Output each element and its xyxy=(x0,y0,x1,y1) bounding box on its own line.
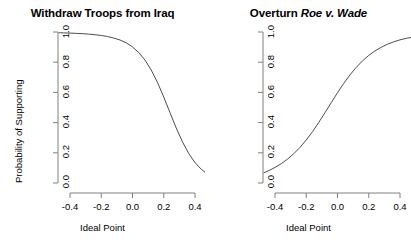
y-tick-label-1-0: 1.0 xyxy=(265,25,276,38)
x-tick-label-0-4: 0.4 xyxy=(393,201,406,212)
x-tick-label-0-0: 0.0 xyxy=(126,201,139,212)
curve-overturn-roe-v-wade xyxy=(264,37,411,172)
x-tick-label-0-2: 0.2 xyxy=(157,201,170,212)
y-tick-label-0-2: 0.2 xyxy=(265,145,276,158)
y-tick-label-0-6: 0.6 xyxy=(265,85,276,98)
y-tick-label-0-0: 0.0 xyxy=(60,175,71,188)
x-axis-label: Ideal Point xyxy=(206,222,411,233)
x-tick-label-0-4: 0.4 xyxy=(188,201,201,212)
x-tick-label-neg-0-4: -0.4 xyxy=(267,201,283,212)
x-tick-label-neg-0-2: -0.2 xyxy=(298,201,314,212)
y-axis-label: Probability of Supporting xyxy=(13,79,24,183)
panel-withdraw-troops: Withdraw Troops from Iraq 1.0 0.8 0.6 xyxy=(0,0,205,248)
y-tick-label-0-2: 0.2 xyxy=(60,145,71,158)
y-tick-label-0-4: 0.4 xyxy=(60,115,71,128)
x-tick-label-0-0: 0.0 xyxy=(331,201,344,212)
curve-withdraw-troops xyxy=(59,33,205,173)
x-tick-label-0-2: 0.2 xyxy=(362,201,375,212)
y-tick-label-0-8: 0.8 xyxy=(60,55,71,68)
panel-overturn-roe-v-wade: Overturn Roe v. Wade 1.0 0.8 0.6 0.4 xyxy=(206,0,411,248)
x-tick-label-neg-0-4: -0.4 xyxy=(62,201,78,212)
y-tick-label-0-8: 0.8 xyxy=(265,55,276,68)
x-tick-label-neg-0-2: -0.2 xyxy=(93,201,109,212)
y-tick-label-0-6: 0.6 xyxy=(60,85,71,98)
figure-canvas: Withdraw Troops from Iraq 1.0 0.8 0.6 xyxy=(0,0,411,248)
x-axis-label: Ideal Point xyxy=(0,222,205,233)
y-tick-label-1-0: 1.0 xyxy=(60,25,71,38)
y-tick-label-0-4: 0.4 xyxy=(265,115,276,128)
y-tick-label-0-0: 0.0 xyxy=(265,175,276,188)
